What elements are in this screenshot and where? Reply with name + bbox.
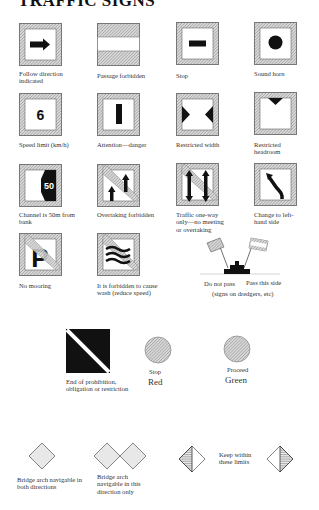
stop-light-label: Stop (149, 368, 161, 375)
waves-icon (97, 233, 140, 276)
sign-overtaking-forbidden (97, 164, 140, 207)
sign-sound-horn (254, 22, 297, 65)
dredger-note: (signs on dredgers, etc) (212, 290, 274, 297)
pass-this-side-flag-icon (244, 238, 268, 268)
sign-no-mooring: P (19, 233, 62, 276)
dredger-right-label: Pass this side (246, 279, 281, 286)
sign-caption: Bridge arch navigable in both directions (17, 476, 87, 491)
page-title: TRAFFIC SIGNS (18, 0, 155, 11)
dredger-left-label: Do not pass (204, 280, 235, 287)
sign-caption: Change to left-hand side (254, 211, 304, 226)
proceed-light-label: Proceed (227, 366, 248, 373)
dot-icon (254, 22, 297, 65)
down-triangle-icon (254, 92, 297, 135)
sign-caption: Speed limit (km/h) (19, 141, 79, 148)
bridge-this-direction (93, 442, 147, 470)
stop-light (144, 336, 172, 364)
diamond-icon (28, 442, 56, 470)
sign-passage-forbidden (97, 23, 140, 66)
dash-icon (176, 22, 219, 65)
double-diamond-icon (93, 442, 147, 470)
sign-caption: Channel is 50m from bank (19, 211, 79, 226)
sign-caption: Bridge arch navigable in this direction … (97, 473, 145, 495)
sign-caption: Restricted headroom (254, 141, 304, 156)
vertical-bar-icon (97, 93, 140, 136)
bands-icon (97, 23, 140, 66)
speed-value: 6 (37, 107, 45, 123)
half-diamond-right-icon (266, 445, 294, 473)
two-way-arrows-icon (176, 163, 219, 206)
opposing-triangles-icon (176, 93, 219, 136)
sign-caption: Passage forbidden (97, 72, 167, 79)
arrow-right-icon (19, 23, 62, 66)
keep-within-left (178, 445, 206, 473)
half-diamond-left-icon (178, 445, 206, 473)
sign-caption: It is forbidden to cause wash (reduce sp… (97, 282, 159, 297)
stop-light-color: Red (148, 377, 163, 387)
sign-stop (176, 22, 219, 65)
sign-channel-from-bank: 50 (19, 164, 62, 207)
sign-no-wash (97, 233, 140, 276)
sign-caption: No mooring (19, 282, 51, 289)
dredger-illustration (200, 236, 280, 276)
bank-distance-icon: 50 (19, 164, 62, 207)
sign-caption: Stop (176, 72, 188, 79)
sign-caption: Sound horn (254, 70, 285, 77)
two-up-arrows-icon (97, 164, 140, 207)
red-light-icon (144, 336, 172, 364)
sign-attention-danger (97, 93, 140, 136)
sign-one-way-traffic (176, 163, 219, 206)
distance-value: 50 (44, 181, 54, 191)
green-light-icon (223, 335, 251, 363)
sign-caption: Attention—danger (97, 141, 167, 148)
diagonal-stripe-icon (66, 329, 110, 373)
sign-change-left (254, 163, 297, 206)
dredger-ship-icon (200, 261, 280, 274)
sign-caption: End of prohibition, obligation or restri… (66, 378, 132, 393)
keep-within-right (266, 445, 294, 473)
do-not-pass-flag-icon (207, 238, 228, 268)
parking-p-icon: P (19, 233, 62, 276)
proceed-light-color: Green (225, 375, 247, 385)
sign-caption: Follow direction indicated (19, 70, 79, 85)
sign-caption: Overtaking forbidden (97, 211, 157, 218)
sign-end-prohibition (66, 329, 110, 373)
sign-restricted-headroom (254, 92, 297, 135)
sign-speed-limit: 6 (19, 93, 62, 136)
sign-restricted-width (176, 93, 219, 136)
bridge-both-directions (28, 442, 56, 470)
curved-arrow-icon (254, 163, 297, 206)
sign-caption: Restricted width (176, 141, 226, 148)
keep-within-label: Keep within these limits (219, 451, 259, 466)
number-icon: 6 (19, 93, 62, 136)
proceed-light (223, 335, 251, 363)
sign-caption: Traffic one-way only—no meeting or overt… (176, 211, 226, 233)
sign-follow-direction (19, 23, 62, 66)
